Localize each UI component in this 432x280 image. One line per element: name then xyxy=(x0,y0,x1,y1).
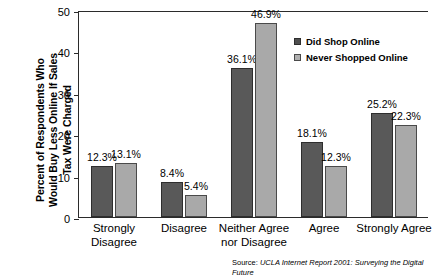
x-axis-category-label: Strongly Agree xyxy=(349,222,432,236)
bar xyxy=(325,166,347,217)
legend-label-0: Did Shop Online xyxy=(306,36,380,47)
bar-value-label: 12.3% xyxy=(317,151,355,163)
y-axis-tick-label: 20 xyxy=(58,130,70,142)
bar-value-label: 13.1% xyxy=(107,148,145,160)
legend-swatch-icon-1 xyxy=(294,54,301,61)
bar xyxy=(185,195,207,217)
bar-group: 12.3%13.1% xyxy=(91,12,137,217)
y-axis-title-line-1: Percent of Respondents Who xyxy=(34,58,48,202)
legend: Did Shop Online Never Shopped Online xyxy=(294,36,408,63)
y-axis-tick xyxy=(74,219,79,220)
bar-value-label: 8.4% xyxy=(153,167,191,179)
bar-value-label: 5.4% xyxy=(177,180,215,192)
bar xyxy=(255,23,277,217)
y-axis-tick-label: 10 xyxy=(58,172,70,184)
legend-item-1: Never Shopped Online xyxy=(294,52,408,63)
bar-group: 8.4%5.4% xyxy=(161,12,207,217)
bar xyxy=(395,125,417,217)
bar xyxy=(115,163,137,217)
bar-value-label: 22.3% xyxy=(387,110,425,122)
bar xyxy=(231,68,253,217)
y-axis-title: Percent of Respondents Who Would Buy Les… xyxy=(31,15,77,245)
bar-value-label: 18.1% xyxy=(293,127,331,139)
y-axis-tick-label: 50 xyxy=(58,6,70,18)
legend-item-0: Did Shop Online xyxy=(294,36,408,47)
y-axis-tick-label: 40 xyxy=(58,47,70,59)
bar xyxy=(91,166,113,217)
bar-group: 36.1%46.9% xyxy=(231,12,277,217)
bar-value-label: 25.2% xyxy=(363,98,401,110)
source-note: Source: UCLA Internet Report 2001: Surve… xyxy=(232,258,430,277)
source-prefix: Source: xyxy=(232,258,260,267)
source-title: UCLA Internet Report 2001: Surveying the… xyxy=(232,258,424,277)
bar xyxy=(371,113,393,217)
y-axis-tick-label: 30 xyxy=(58,89,70,101)
bar-chart: Percent of Respondents Who Would Buy Les… xyxy=(0,0,432,280)
bar-value-label: 46.9% xyxy=(247,8,285,20)
legend-label-1: Never Shopped Online xyxy=(306,52,408,63)
legend-swatch-icon-0 xyxy=(294,38,301,45)
